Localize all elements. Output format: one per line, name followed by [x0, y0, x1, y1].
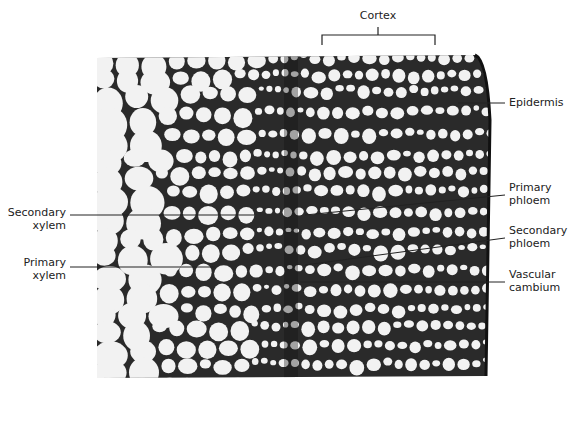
cell: [223, 151, 238, 167]
cell: [387, 150, 401, 161]
cell: [164, 206, 181, 220]
cell: [181, 85, 201, 103]
cell: [406, 53, 414, 60]
cell: [404, 208, 413, 217]
tissue-section: [90, 50, 505, 408]
cell: [257, 208, 263, 213]
cell: [268, 54, 278, 64]
cell: [461, 86, 471, 96]
cell: [305, 265, 315, 274]
cell: [297, 108, 303, 113]
cell: [392, 69, 405, 83]
cell: [415, 207, 427, 218]
cell: [265, 208, 272, 214]
cell: [220, 186, 234, 200]
cell: [238, 87, 256, 103]
cell: [247, 379, 259, 388]
primary-xylem-line2: xylem: [4, 269, 66, 282]
primary-phloem-line1: Primary: [509, 181, 552, 194]
cell: [490, 206, 499, 214]
cell: [447, 264, 458, 275]
cell: [366, 69, 379, 81]
cell: [334, 306, 348, 319]
cell: [214, 107, 231, 124]
cell: [408, 72, 420, 85]
cell: [161, 359, 175, 374]
cell: [331, 284, 342, 296]
cell: [301, 322, 315, 337]
cell: [400, 285, 412, 294]
cell: [272, 187, 280, 196]
cell: [444, 208, 452, 217]
cell: [368, 284, 381, 297]
secondary-phloem-label: Secondary phloem: [509, 224, 567, 250]
cell: [93, 360, 126, 386]
cell: [260, 321, 269, 330]
cell: [356, 228, 364, 235]
cell: [309, 55, 320, 65]
cell: [447, 106, 459, 116]
cell: [183, 130, 200, 144]
cell: [392, 53, 404, 63]
cell: [262, 305, 271, 313]
cell: [314, 380, 324, 389]
cell: [240, 340, 259, 359]
cell: [300, 53, 307, 58]
cell: [444, 340, 457, 350]
cell: [273, 69, 279, 76]
cell: [152, 320, 167, 332]
cell: [183, 207, 196, 221]
cell: [346, 185, 355, 194]
cell: [253, 149, 261, 157]
cell: [460, 265, 467, 270]
cell: [305, 305, 315, 314]
cell: [355, 71, 363, 80]
cell: [405, 128, 414, 136]
cell: [342, 206, 355, 217]
cell: [179, 264, 193, 278]
cell: [323, 54, 335, 66]
cell: [265, 266, 273, 273]
cell: [228, 55, 245, 71]
cell: [335, 85, 343, 92]
cell: [236, 184, 250, 196]
cell: [472, 360, 480, 367]
cell: [313, 228, 325, 238]
cell: [350, 304, 363, 316]
cell: [177, 341, 196, 358]
cell: [368, 167, 381, 180]
cell: [272, 285, 282, 295]
cell: [432, 360, 440, 366]
cell: [469, 167, 477, 175]
cell: [310, 151, 324, 166]
cell: [385, 341, 395, 350]
cell: [423, 340, 432, 347]
epidermis-label: Epidermis: [509, 96, 564, 109]
cell: [351, 131, 360, 138]
cell: [304, 87, 319, 98]
cell: [331, 185, 344, 196]
cell: [384, 166, 396, 178]
cell: [442, 166, 453, 177]
cell: [337, 243, 346, 250]
cell: [181, 286, 195, 298]
cell: [253, 284, 262, 292]
cell: [443, 321, 453, 329]
cell: [478, 323, 485, 330]
cell: [491, 341, 497, 348]
cell: [314, 185, 328, 196]
cell: [206, 227, 220, 242]
cell: [261, 358, 268, 364]
cell: [338, 166, 353, 178]
cell: [179, 107, 193, 120]
cell: [448, 286, 458, 296]
cell: [266, 86, 272, 92]
cell: [221, 206, 236, 221]
secondary-xylem-line1: Secondary: [4, 206, 66, 219]
cell: [443, 227, 453, 238]
cell: [212, 378, 229, 392]
cell: [490, 185, 500, 193]
cell: [93, 245, 115, 265]
cell: [451, 86, 459, 92]
cell: [195, 305, 211, 321]
